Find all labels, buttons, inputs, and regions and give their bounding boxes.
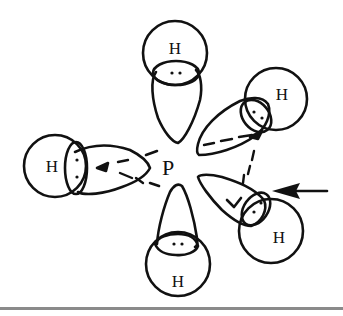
lower-right-lobe	[198, 175, 265, 226]
pointer-arrow	[272, 183, 327, 199]
left-orbital	[24, 135, 159, 197]
top-h-label: H	[169, 39, 181, 58]
bottom-overlap-ellipse	[155, 234, 198, 255]
central-atom-label: P	[162, 155, 174, 180]
top-overlap-ellipse	[153, 61, 199, 85]
upper-right-orbital	[197, 68, 307, 174]
upper-right-lobe	[197, 98, 269, 155]
lower-right-h-circle	[239, 199, 303, 263]
bottom-h-label: H	[172, 272, 184, 291]
lower-right-h-label: H	[273, 228, 285, 247]
left-overlap-ellipse	[65, 142, 87, 194]
bottom-border-line	[0, 307, 343, 310]
upper-right-h-label: H	[276, 85, 288, 104]
left-h-label: H	[46, 157, 58, 176]
ph5-orbital-diagram: P H H H H H	[0, 0, 343, 316]
